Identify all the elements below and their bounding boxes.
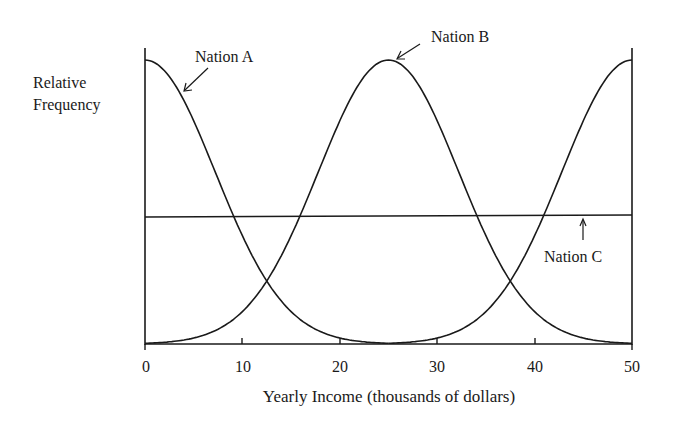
nation-a-curve xyxy=(145,60,389,343)
nation-a-right-curve xyxy=(389,60,633,343)
nation-c-line xyxy=(145,215,632,217)
chart: Relative Frequency Nation A Nation B Nat… xyxy=(0,0,675,435)
svg-text:10: 10 xyxy=(235,358,251,375)
nation-b-curve xyxy=(145,60,632,343)
nation-b-arrow xyxy=(397,44,420,59)
svg-text:20: 20 xyxy=(332,358,348,375)
svg-text:30: 30 xyxy=(429,358,445,375)
nation-a-arrow xyxy=(184,68,208,91)
nation-b-label: Nation B xyxy=(431,28,489,45)
y-axis-label-line2: Frequency xyxy=(33,96,101,114)
nation-c-arrow xyxy=(580,219,586,240)
svg-text:50: 50 xyxy=(624,358,640,375)
nation-c-label: Nation C xyxy=(544,248,602,265)
svg-text:40: 40 xyxy=(527,358,543,375)
x-axis-label: Yearly Income (thousands of dollars) xyxy=(263,387,515,406)
x-tick-labels: 0 10 20 30 40 50 xyxy=(142,358,640,375)
svg-text:0: 0 xyxy=(142,358,150,375)
y-axis-label-line1: Relative xyxy=(33,74,86,91)
nation-a-label: Nation A xyxy=(195,48,254,65)
